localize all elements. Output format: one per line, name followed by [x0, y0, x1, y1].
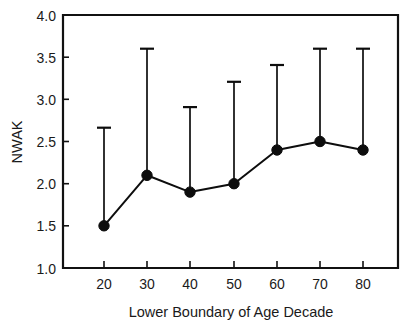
y-tick-label-3-5: 3.5	[37, 50, 57, 66]
x-tick-label-50: 50	[226, 276, 242, 292]
y-tick-label-3-0: 3.0	[37, 92, 57, 108]
chart-figure: 4.0 3.5 3.0 2.5 2.0 1.5 1.0 20 30 40 50 …	[0, 0, 411, 325]
x-tick-label-80: 80	[355, 276, 371, 292]
x-tick-label-70: 70	[312, 276, 328, 292]
x-tick-label-40: 40	[182, 276, 198, 292]
data-point-30	[142, 170, 152, 180]
data-point-40	[185, 187, 195, 197]
x-tick-label-60: 60	[269, 276, 285, 292]
data-point-60	[272, 145, 282, 155]
x-axis-title: Lower Boundary of Age Decade	[129, 304, 334, 320]
x-tick-label-30: 30	[139, 276, 155, 292]
x-tick-label-20: 20	[96, 276, 112, 292]
y-axis-title: NWAK	[9, 120, 25, 163]
figure-background	[0, 0, 411, 325]
data-point-70	[315, 136, 325, 146]
y-tick-label-2-0: 2.0	[37, 176, 57, 192]
data-point-80	[358, 145, 368, 155]
y-tick-label-2-5: 2.5	[37, 134, 57, 150]
line-chart-canvas: 4.0 3.5 3.0 2.5 2.0 1.5 1.0 20 30 40 50 …	[0, 0, 411, 325]
data-point-50	[229, 179, 239, 189]
y-tick-label-4-0: 4.0	[37, 8, 57, 24]
y-tick-label-1-0: 1.0	[37, 261, 57, 277]
y-tick-label-1-5: 1.5	[37, 218, 57, 234]
data-point-20	[99, 221, 109, 231]
